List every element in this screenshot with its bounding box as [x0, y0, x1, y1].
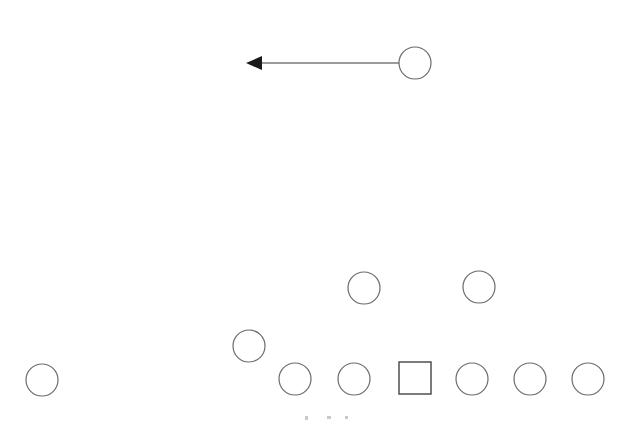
node-circle[interactable] [233, 330, 265, 362]
arrowhead-icon [246, 56, 262, 70]
tick-mark [327, 416, 331, 419]
node-square[interactable] [399, 362, 431, 394]
node-circle[interactable] [399, 47, 431, 79]
diagram-svg [0, 0, 639, 421]
diagram-canvas [0, 0, 639, 421]
nodes-layer [26, 47, 604, 396]
tick-mark [345, 416, 348, 419]
tick-marks-layer [305, 416, 348, 420]
tick-mark [305, 416, 308, 420]
node-circle[interactable] [572, 363, 604, 395]
node-circle[interactable] [456, 363, 488, 395]
node-circle[interactable] [338, 363, 370, 395]
node-circle[interactable] [26, 364, 58, 396]
node-circle[interactable] [463, 271, 495, 303]
node-circle[interactable] [348, 272, 380, 304]
node-circle[interactable] [514, 363, 546, 395]
edges-layer [246, 56, 399, 70]
node-circle[interactable] [279, 363, 311, 395]
